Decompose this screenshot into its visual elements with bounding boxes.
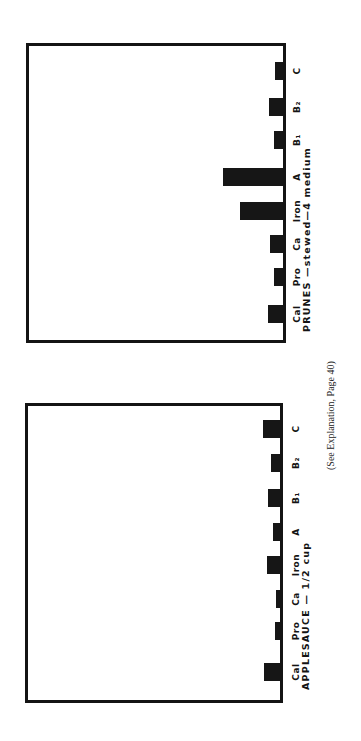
bar-b2: [271, 454, 280, 472]
bar-c: [275, 62, 283, 80]
bar-iron: [267, 556, 280, 574]
figure-caption: (See Explanation, Page 40): [325, 361, 336, 470]
bar-a: [273, 523, 280, 541]
bar-a: [223, 168, 283, 186]
bar-pro: [274, 268, 283, 286]
applesauce-chart-frame: [25, 403, 283, 703]
category-label-c: C: [291, 56, 303, 86]
category-label-b2: B₂: [290, 448, 302, 478]
bar-pro: [275, 622, 280, 640]
applesauce-chart-title: APPLESAUCE — 1/2 cup: [300, 542, 311, 690]
bar-c: [263, 420, 280, 438]
bar-ca: [276, 590, 280, 608]
category-label-c: C: [290, 414, 302, 444]
bar-ca: [270, 235, 283, 253]
bar-cal: [268, 305, 283, 323]
bar-b1: [274, 131, 283, 149]
bar-b2: [269, 98, 283, 116]
bar-iron: [240, 202, 283, 220]
category-label-b1: B₁: [290, 483, 302, 513]
prunes-chart-frame: [26, 43, 286, 343]
bar-cal: [264, 663, 280, 681]
bar-b1: [268, 489, 280, 507]
prunes-chart-title: PRUNES —stewed—4 medium: [301, 147, 312, 332]
category-label-b2: B₂: [291, 92, 303, 122]
